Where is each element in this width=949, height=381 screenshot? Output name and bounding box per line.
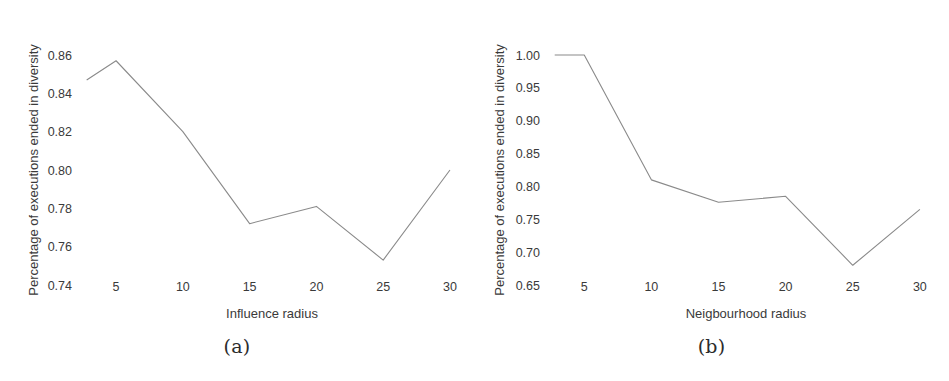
chart-a-ylabel: Percentage of executions ended in divers… — [26, 44, 41, 296]
figure-panel-row: 0.740.760.780.800.820.840.86 51015202530… — [0, 0, 949, 381]
chart-b-ytick-label: 0.90 — [516, 114, 540, 128]
chart-a-ytick-label: 0.82 — [48, 125, 72, 139]
chart-a-xtick-label: 25 — [376, 280, 390, 294]
chart-a-plot: 0.740.760.780.800.820.840.86 51015202530… — [0, 0, 474, 335]
chart-b-xtick-label: 30 — [913, 280, 927, 294]
chart-b-ytick-label: 0.95 — [516, 81, 540, 95]
chart-a-xticklabels: 51015202530 — [113, 280, 457, 294]
chart-b-ytick-label: 0.80 — [516, 180, 540, 194]
chart-a-ytick-label: 0.74 — [48, 279, 72, 293]
subfigure-b: 0.650.700.750.800.850.900.951.00 5101520… — [474, 0, 949, 381]
chart-a-xtick-label: 10 — [176, 280, 190, 294]
chart-b-yticklabels: 0.650.700.750.800.850.900.951.00 — [516, 49, 540, 293]
chart-b-ylabel: Percentage of executions ended in divers… — [492, 44, 507, 296]
chart-a-series-line — [87, 61, 450, 260]
chart-b-ytick-label: 0.75 — [516, 213, 540, 227]
chart-b-ytick-label: 0.70 — [516, 246, 540, 260]
chart-b-plot: 0.650.700.750.800.850.900.951.00 5101520… — [474, 0, 949, 335]
chart-a-ytick-label: 0.76 — [48, 240, 72, 254]
chart-a-ytick-label: 0.80 — [48, 164, 72, 178]
chart-a-yticklabels: 0.740.760.780.800.820.840.86 — [48, 49, 72, 293]
chart-b-xtick-label: 10 — [644, 280, 658, 294]
chart-a-xlabel: Influence radius — [226, 306, 318, 321]
chart-b-xtick-label: 20 — [779, 280, 793, 294]
chart-a-xtick-label: 5 — [113, 280, 120, 294]
chart-b-ytick-label: 0.85 — [516, 147, 540, 161]
caption-b: (b) — [474, 335, 949, 357]
chart-a-ytick-label: 0.78 — [48, 202, 72, 216]
chart-b-ytick-label: 0.65 — [516, 279, 540, 293]
chart-b-xticklabels: 51015202530 — [581, 280, 927, 294]
subfigure-a: 0.740.760.780.800.820.840.86 51015202530… — [0, 0, 474, 381]
chart-a-xtick-label: 30 — [443, 280, 457, 294]
chart-b-ytick-label: 1.00 — [516, 49, 540, 63]
chart-b-xlabel: Neigbourhood radius — [686, 306, 807, 321]
chart-b-xtick-label: 15 — [712, 280, 726, 294]
chart-b-series-line — [555, 55, 920, 265]
chart-b-xtick-label: 25 — [846, 280, 860, 294]
chart-a-xtick-label: 15 — [243, 280, 257, 294]
caption-a: (a) — [0, 335, 474, 357]
chart-a-xtick-label: 20 — [309, 280, 323, 294]
chart-a-ytick-label: 0.86 — [48, 49, 72, 63]
chart-a-ytick-label: 0.84 — [48, 87, 72, 101]
chart-b-xtick-label: 5 — [581, 280, 588, 294]
